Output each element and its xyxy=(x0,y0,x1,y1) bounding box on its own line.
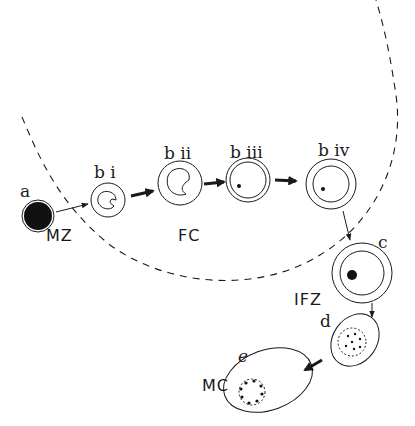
arrow-bi-to-bii xyxy=(131,191,153,196)
label-zone-fc: FC xyxy=(178,228,200,244)
label-zone-ifz: IFZ xyxy=(294,292,322,308)
cell-e xyxy=(215,336,322,424)
diagram-svg xyxy=(0,0,415,426)
label-zone-mz: MZ xyxy=(46,228,73,244)
cell-c xyxy=(332,243,392,303)
label-stage-bii: b ii xyxy=(164,145,191,162)
label-stage-biii: b iii xyxy=(230,144,263,161)
cell-biv xyxy=(306,159,356,209)
label-zone-mc: MC xyxy=(202,378,229,394)
label-stage-e: e xyxy=(238,348,248,365)
label-stage-c: c xyxy=(378,234,388,251)
arrow-d-to-e xyxy=(305,360,322,370)
cell-bii xyxy=(158,161,202,205)
label-stage-d: d xyxy=(320,313,331,330)
arrow-biv-to-c xyxy=(343,211,350,240)
arrow-biii-to-biv xyxy=(275,180,296,181)
diagram-canvas: a b i b ii b iii b iv c d e MZ FC IFZ MC xyxy=(0,0,415,426)
cell-d xyxy=(321,304,389,375)
arrow-bii-to-biii xyxy=(204,182,224,184)
label-stage-biv: b iv xyxy=(318,142,349,159)
label-stage-a: a xyxy=(20,183,30,200)
label-stage-bi: b i xyxy=(94,164,116,181)
cell-biii xyxy=(226,158,270,202)
arrow-a-to-bi xyxy=(56,204,88,212)
cell-bi xyxy=(91,183,125,217)
